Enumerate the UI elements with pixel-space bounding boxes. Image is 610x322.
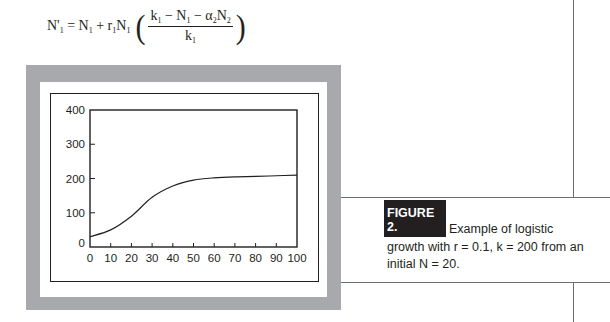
- close-paren: ): [236, 9, 246, 44]
- fraction-denominator: k1: [185, 27, 196, 45]
- fraction: k1 − N1 − α2N2 k1: [148, 8, 232, 45]
- svg-text:50: 50: [187, 252, 200, 264]
- svg-text:0: 0: [79, 237, 85, 249]
- equation-lhs-symbol: N': [47, 18, 60, 33]
- num-k-subscript: 1: [157, 16, 161, 25]
- chart-tick-labels: 01020304050607080901000100200300400: [66, 104, 307, 264]
- chart-axes: [90, 110, 297, 247]
- svg-text:10: 10: [104, 252, 117, 264]
- equation-lhs: N'1 = N1 + r1N1: [47, 18, 130, 34]
- open-paren: (: [135, 9, 145, 44]
- term1-subscript: 1: [89, 26, 93, 35]
- num-alpha-subscript: 2: [213, 16, 217, 25]
- svg-text:90: 90: [270, 252, 283, 264]
- svg-text:300: 300: [66, 138, 85, 150]
- caption-top-rule: [341, 197, 610, 198]
- num-n: N: [176, 8, 186, 23]
- minus-sign: −: [165, 8, 173, 23]
- figure-caption: Example of logistic growth with r = 0.1,…: [387, 221, 587, 274]
- logistic-curve: [90, 175, 297, 237]
- num-n-subscript: 1: [186, 16, 190, 25]
- term1-symbol: N: [79, 18, 89, 33]
- svg-text:400: 400: [66, 104, 85, 116]
- svg-text:0: 0: [87, 252, 93, 264]
- term2-r-subscript: 1: [112, 26, 116, 35]
- fraction-numerator: k1 − N1 − α2N2: [148, 8, 232, 27]
- svg-text:80: 80: [249, 252, 262, 264]
- caption-line-1: Example of logistic: [449, 222, 553, 236]
- caption-line-2: growth with r = 0.1, k = 200 from an: [387, 239, 587, 257]
- den-k-subscript: 1: [192, 36, 196, 45]
- svg-text:100: 100: [287, 252, 306, 264]
- num-alpha: α: [205, 8, 212, 23]
- caption-line-3: initial N = 20.: [387, 256, 587, 274]
- svg-text:200: 200: [66, 173, 85, 185]
- column-rule-upper: [573, 0, 574, 197]
- minus-sign: −: [194, 8, 202, 23]
- svg-text:30: 30: [146, 252, 159, 264]
- svg-text:40: 40: [166, 252, 179, 264]
- num-n2: N: [217, 8, 227, 23]
- equals-sign: =: [67, 18, 75, 33]
- equation-lhs-subscript: 1: [60, 26, 64, 35]
- term2-n-subscript: 1: [126, 26, 130, 35]
- svg-text:70: 70: [229, 252, 242, 264]
- num-n2-subscript: 2: [227, 16, 231, 25]
- caption-bottom-rule: [341, 282, 610, 283]
- logistic-chart: 01020304050607080901000100200300400: [50, 93, 319, 282]
- column-rule-lower: [573, 282, 574, 322]
- term2-n-symbol: N: [116, 18, 126, 33]
- svg-text:20: 20: [125, 252, 138, 264]
- svg-text:60: 60: [208, 252, 221, 264]
- logistic-equation: N'1 = N1 + r1N1 ( k1 − N1 − α2N2 k1 ): [47, 6, 247, 46]
- chart-ticks: [90, 144, 276, 247]
- svg-text:100: 100: [66, 207, 85, 219]
- plus-sign: +: [96, 18, 104, 33]
